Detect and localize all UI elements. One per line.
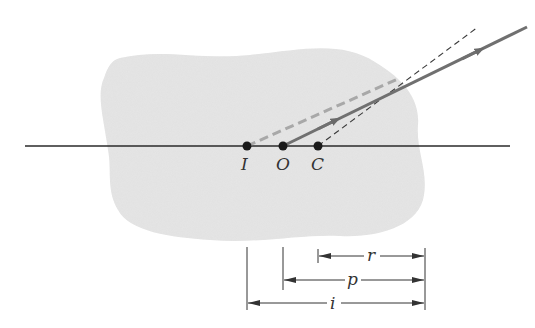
label-r: r — [367, 245, 376, 265]
label-O: O — [276, 154, 290, 174]
ray-arrow-2 — [462, 50, 480, 59]
label-p: p — [347, 269, 358, 289]
medium-region — [101, 48, 425, 241]
label-C: C — [311, 154, 324, 174]
label-i: i — [330, 293, 335, 313]
refraction-diagram: I O C r p i — [0, 0, 535, 328]
point-C — [314, 142, 323, 151]
point-I — [243, 142, 252, 151]
label-I: I — [240, 154, 248, 174]
point-O — [279, 142, 288, 151]
